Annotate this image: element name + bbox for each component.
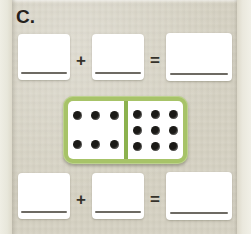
- top-equals-operator: =: [144, 52, 166, 69]
- domino-pip: [151, 126, 160, 135]
- page-edge-right: [237, 0, 251, 234]
- bottom-addend-2-writing-line: [95, 211, 141, 213]
- top-rule: [12, 0, 237, 3]
- domino-left-pip-row: [73, 140, 119, 149]
- worksheet-panel: C. + =: [0, 0, 251, 234]
- top-sum-writing-line: [170, 73, 228, 75]
- page-edge-left: [0, 0, 12, 234]
- bottom-sum-writing-line: [170, 212, 228, 214]
- domino-pip: [169, 110, 178, 119]
- top-addend-1-box[interactable]: [18, 34, 70, 80]
- top-plus-operator: +: [70, 52, 92, 69]
- domino-pip: [133, 126, 142, 135]
- domino-pip: [110, 111, 119, 120]
- bottom-addend-1-writing-line: [21, 211, 67, 213]
- top-sum-box[interactable]: [166, 33, 232, 81]
- bottom-plus-operator: +: [70, 191, 92, 208]
- bottom-sum-box[interactable]: [166, 172, 232, 220]
- domino-pip: [110, 140, 119, 149]
- domino-right-half: [128, 101, 184, 159]
- domino-pip: [73, 111, 82, 120]
- domino-right-pip-row: [133, 110, 179, 119]
- top-addend-2-writing-line: [95, 72, 141, 74]
- domino-left-pip-row: [73, 111, 119, 120]
- domino-pip: [91, 111, 100, 120]
- top-addend-1-writing-line: [21, 72, 67, 74]
- domino-pip: [91, 140, 100, 149]
- domino-pip: [133, 110, 142, 119]
- domino-tile: [63, 96, 188, 164]
- page-edge-right-shadow: [233, 0, 237, 234]
- domino-divider: [124, 101, 128, 159]
- top-addend-2-box[interactable]: [92, 34, 144, 80]
- domino-pip: [151, 110, 160, 119]
- domino-pip: [169, 126, 178, 135]
- problem-label: C.: [16, 7, 35, 26]
- bottom-addend-1-box[interactable]: [18, 173, 70, 219]
- domino-pip: [151, 142, 160, 151]
- domino-right-pip-row: [133, 142, 179, 151]
- bottom-addend-2-box[interactable]: [92, 173, 144, 219]
- page-edge-left-shadow: [12, 0, 16, 234]
- bottom-equals-operator: =: [144, 191, 166, 208]
- domino-pip: [169, 142, 178, 151]
- domino-pip: [73, 140, 82, 149]
- domino-pip: [133, 142, 142, 151]
- domino-right-pip-row: [133, 126, 179, 135]
- domino-left-half: [68, 101, 124, 159]
